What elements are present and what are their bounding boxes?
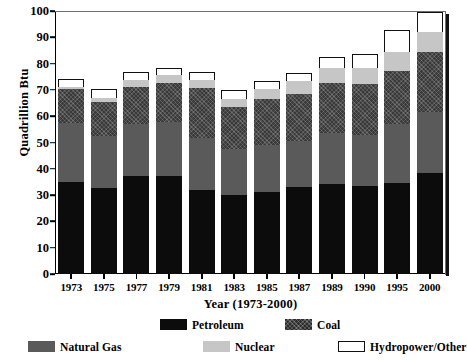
y-tick-label-0: 0 [9,268,49,281]
legend-swatch-hydropower-other [338,341,365,352]
bar-segment-natural-gas-1985 [254,145,280,192]
bar-segment-natural-gas-1983 [221,149,247,195]
bar-segment-coal-1983 [221,107,247,149]
y-tick-mark-40 [50,168,55,170]
y-tick-mark-70 [50,89,55,91]
bar-segment-coal-2000 [417,52,443,111]
bar-2000 [417,12,443,274]
x-axis-title: Year (1973-2000) [55,297,446,312]
bar-segment-petroleum-2000 [417,173,443,274]
y-tick-mark-30 [50,194,55,196]
x-tick-mark-1975 [103,274,105,279]
legend-swatch-nuclear [203,341,230,352]
legend-item-coal[interactable]: Coal [285,318,340,331]
bar-segment-natural-gas-1989 [319,133,345,184]
y-tick-mark-60 [50,115,55,117]
y-tick-mark-100 [50,10,55,12]
bar-1973 [58,79,84,274]
x-tick-mark-1973 [70,274,72,279]
bar-1981 [189,72,215,274]
x-tick-label-2000: 2000 [410,281,450,293]
y-tick-label-10: 10 [9,241,49,254]
legend-swatch-natural-gas [28,341,55,352]
bar-1975 [91,89,117,274]
y-tick-label-40: 40 [9,163,49,176]
x-tick-mark-1990 [364,274,366,279]
bar-segment-hydropower-other-1977 [123,72,149,80]
bar-segment-petroleum-1979 [156,176,182,274]
y-tick-label-60: 60 [9,110,49,123]
bar-1979 [156,68,182,274]
chart-title [55,0,445,3]
bar-segment-nuclear-1990 [352,68,378,84]
plot-frame-shadow [446,14,449,276]
y-tick-mark-0 [50,273,55,275]
bar-segment-hydropower-other-1987 [286,73,312,81]
bar-segment-nuclear-1989 [319,68,345,83]
bar-1977 [123,72,149,274]
x-tick-mark-1979 [168,274,170,279]
bar-segment-natural-gas-1995 [384,124,410,183]
bar-segment-coal-1981 [189,88,215,138]
bar-segment-natural-gas-1979 [156,122,182,176]
x-tick-mark-1987 [298,274,300,279]
y-tick-label-100: 100 [9,5,49,18]
bar-segment-nuclear-1977 [123,80,149,87]
bar-segment-coal-1989 [319,83,345,133]
bar-segment-petroleum-1990 [352,186,378,274]
bar-segment-petroleum-1983 [221,195,247,274]
bar-segment-natural-gas-1973 [58,123,84,182]
bar-segment-hydropower-other-1995 [384,30,410,52]
legend-item-hydropower-other[interactable]: Hydropower/Other [338,340,467,353]
bar-segment-coal-1973 [58,89,84,123]
legend-item-petroleum[interactable]: Petroleum [160,318,244,331]
legend-item-natural-gas[interactable]: Natural Gas [28,340,121,353]
y-tick-label-90: 90 [9,31,49,44]
bar-group [55,11,446,274]
bar-segment-hydropower-other-1975 [91,89,117,97]
bar-segment-coal-1977 [123,87,149,124]
bar-segment-hydropower-other-1990 [352,54,378,68]
bar-1983 [221,90,247,274]
bar-segment-hydropower-other-1989 [319,57,345,69]
bar-segment-natural-gas-1981 [189,138,215,190]
y-tick-label-20: 20 [9,215,49,228]
bar-segment-natural-gas-1987 [286,141,312,187]
bar-segment-hydropower-other-1981 [189,72,215,80]
bar-segment-hydropower-other-1973 [58,79,84,87]
bar-segment-coal-1987 [286,94,312,141]
legend-label: Natural Gas [60,341,121,353]
bar-segment-petroleum-1995 [384,183,410,274]
legend-swatch-petroleum [160,319,187,330]
bar-1987 [286,73,312,274]
bar-segment-petroleum-1989 [319,184,345,274]
bar-segment-hydropower-other-1985 [254,81,280,89]
x-tick-mark-1995 [396,274,398,279]
bar-segment-nuclear-1981 [189,80,215,88]
y-tick-label-70: 70 [9,84,49,97]
bar-1989 [319,57,345,274]
bar-segment-nuclear-1979 [156,75,182,82]
bar-1990 [352,54,378,274]
y-tick-mark-20 [50,221,55,223]
bar-segment-nuclear-1995 [384,52,410,71]
y-tick-mark-50 [50,142,55,144]
bar-segment-coal-1990 [352,84,378,134]
bar-segment-hydropower-other-1983 [221,90,247,99]
y-tick-label-30: 30 [9,189,49,202]
y-tick-mark-80 [50,63,55,65]
y-tick-label-50: 50 [9,136,49,149]
bar-segment-nuclear-2000 [417,32,443,53]
bar-segment-coal-1975 [91,102,117,135]
x-tick-mark-2000 [429,274,431,279]
y-axis-tick-labels: 0102030405060708090100 [0,0,49,361]
bar-segment-nuclear-1985 [254,89,280,100]
bar-segment-nuclear-1987 [286,81,312,94]
y-tick-label-80: 80 [9,57,49,70]
bar-segment-coal-1979 [156,83,182,122]
bar-segment-petroleum-1973 [58,182,84,274]
bar-segment-petroleum-1987 [286,187,312,274]
x-axis-ticks [55,274,446,280]
bar-segment-coal-1985 [254,99,280,145]
legend-item-nuclear[interactable]: Nuclear [203,340,275,353]
